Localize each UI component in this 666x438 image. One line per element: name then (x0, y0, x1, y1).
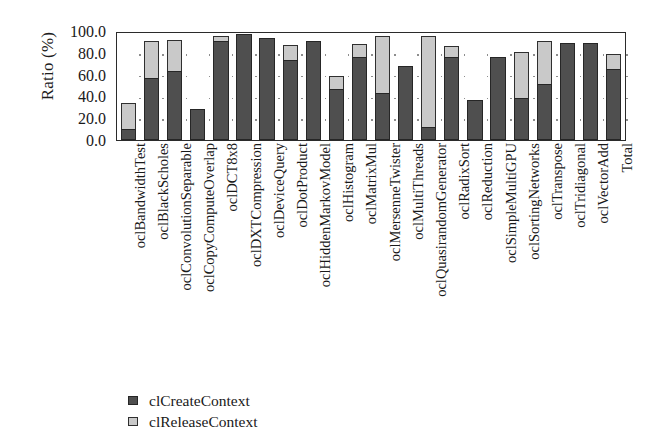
bar-segment-create-context (144, 78, 159, 140)
stacked-bar[interactable] (190, 109, 205, 140)
stacked-bar[interactable] (375, 36, 390, 140)
stacked-bar[interactable] (583, 43, 598, 140)
bar-segment-release-context (421, 36, 436, 126)
bar-segment-create-context (283, 60, 298, 140)
legend-label: clCreateContext (149, 392, 250, 410)
plot-area (116, 32, 626, 141)
bar-segment-create-context (259, 38, 274, 140)
bar-segment-create-context (421, 127, 436, 140)
x-tick-slot: oclHistogram (325, 143, 348, 353)
bar-segment-create-context (329, 89, 344, 140)
y-tick-label: 0.0 (86, 133, 106, 149)
stacked-bar[interactable] (352, 44, 367, 140)
x-tick-slot: Total (603, 143, 626, 353)
x-tick-slot: oclDXTCompression (232, 143, 255, 353)
bar-segment-create-context (606, 69, 621, 140)
x-tick-slot: oclSimpleMultiGPU (487, 143, 510, 353)
bar-segment-create-context (190, 109, 205, 140)
x-tick-slot: oclReduction (464, 143, 487, 353)
x-tick-slot: oclTranspose (533, 143, 556, 353)
bar-segment-create-context (352, 57, 367, 140)
stacked-bar[interactable] (444, 46, 459, 140)
bar-slot (394, 33, 417, 140)
y-tick-label: 80.0 (78, 45, 106, 61)
bar-slot (117, 33, 140, 140)
bar-segment-create-context (560, 43, 575, 140)
y-tick-label: 60.0 (78, 67, 106, 83)
x-tick-slot: oclQuasirandomGenerator (417, 143, 440, 353)
bar-segment-release-context (144, 41, 159, 78)
bar-slot (209, 33, 232, 140)
stacked-bar[interactable] (259, 38, 274, 140)
bar-segment-create-context (444, 57, 459, 140)
legend-swatch-release-context (128, 417, 138, 426)
stacked-bar[interactable] (560, 43, 575, 140)
bar-segment-create-context (375, 93, 390, 140)
stacked-bar[interactable] (283, 45, 298, 140)
bar-segment-release-context (283, 45, 298, 60)
legend-label: clReleaseContext (149, 413, 257, 431)
stacked-bar[interactable] (306, 41, 321, 140)
bar-slot (579, 33, 602, 140)
bar-slot (140, 33, 163, 140)
stacked-bar[interactable] (467, 100, 482, 140)
bar-segment-release-context (444, 46, 459, 57)
stacked-bar[interactable] (490, 57, 505, 140)
x-tick-slot: oclConvolutionSeparable (162, 143, 185, 353)
bar-slot (279, 33, 302, 140)
bar-slot (533, 33, 556, 140)
bar-slot (556, 33, 579, 140)
chart-figure: Ratio (%) 100.080.060.040.020.00.0 oclBa… (0, 0, 666, 438)
bar-segment-release-context (121, 103, 136, 129)
legend-swatch-create-context (128, 396, 138, 405)
x-axis-tick-labels: oclBandwidthTestoclBlackScholesoclConvol… (116, 143, 626, 353)
bar-segment-create-context (537, 84, 552, 140)
bar-slot (602, 33, 625, 140)
x-tick-slot: oclBandwidthTest (116, 143, 139, 353)
stacked-bar[interactable] (537, 41, 552, 140)
stacked-bar[interactable] (213, 36, 228, 140)
x-tick-slot: oclDeviceQuery (255, 143, 278, 353)
bar-slot (186, 33, 209, 140)
bar-segment-release-context (352, 44, 367, 57)
y-tick-label: 20.0 (78, 111, 106, 127)
x-tick-slot: oclRadixSort (441, 143, 464, 353)
bar-segment-create-context (167, 71, 182, 140)
bar-segment-release-context (514, 52, 529, 98)
stacked-bar[interactable] (121, 103, 136, 140)
stacked-bar[interactable] (398, 66, 413, 140)
grid-dot (626, 54, 628, 56)
x-tick-slot: oclHiddenMarkovModel (302, 143, 325, 353)
stacked-bar[interactable] (514, 52, 529, 140)
stacked-bar[interactable] (144, 41, 159, 140)
bar-slot (232, 33, 255, 140)
bar-slot (325, 33, 348, 140)
bar-segment-create-context (490, 57, 505, 140)
stacked-bar[interactable] (329, 76, 344, 140)
bar-segment-release-context (329, 76, 344, 89)
legend-item[interactable]: clCreateContext (128, 390, 257, 411)
stacked-bar[interactable] (606, 54, 621, 140)
bar-segment-create-context (514, 98, 529, 141)
bar-slot (256, 33, 279, 140)
chart-legend: clCreateContextclReleaseContext (128, 390, 257, 432)
bar-slot (440, 33, 463, 140)
bar-segment-create-context (583, 43, 598, 140)
grid-dot (626, 76, 628, 78)
bar-segment-create-context (213, 41, 228, 140)
y-tick-label: 100.0 (70, 24, 106, 40)
stacked-bar[interactable] (421, 36, 436, 140)
stacked-bar[interactable] (167, 40, 182, 140)
grid-dot (626, 98, 628, 100)
x-tick-slot: oclCopyComputeOverlap (186, 143, 209, 353)
bar-slot (463, 33, 486, 140)
bar-segment-create-context (236, 34, 251, 140)
bar-segment-create-context (306, 41, 321, 140)
bar-slot (417, 33, 440, 140)
x-tick-slot: oclBlackScholes (139, 143, 162, 353)
x-tick-slot: oclTridiagonal (557, 143, 580, 353)
bar-slot (371, 33, 394, 140)
stacked-bar[interactable] (236, 34, 251, 140)
legend-item[interactable]: clReleaseContext (128, 411, 257, 432)
bar-segment-release-context (606, 54, 621, 69)
